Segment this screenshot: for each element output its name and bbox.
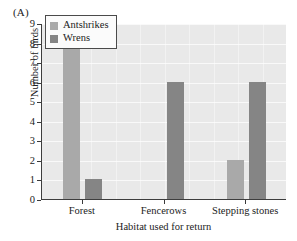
legend-swatch-antshrikes-icon [50,22,58,30]
y-tick-label: 6 [22,77,35,88]
bar-antshrikes-stepping-stones [227,160,244,199]
legend-item-antshrikes: Antshrikes [50,19,109,32]
y-tick-label: 3 [22,136,35,147]
bar-wrens-stepping-stones [249,82,266,199]
bar-wrens-fencerows [167,82,184,199]
y-tick-mark [37,180,41,181]
y-tick-label: 1 [22,175,35,186]
y-tick-mark [37,200,41,201]
x-tick-mark [164,200,165,204]
gridline-vertical [214,24,215,199]
x-tick-mark [245,200,246,204]
gridline-vertical [165,24,166,199]
legend-label-antshrikes: Antshrikes [63,20,109,31]
x-tick-mark [82,200,83,204]
gridline-vertical [116,24,117,199]
y-tick-mark [37,161,41,162]
gridline-vertical [189,24,190,199]
y-tick-mark [37,141,41,142]
y-tick-mark [37,24,41,25]
panel-label: (A) [13,6,29,18]
y-tick-label: 4 [22,117,35,128]
bar-wrens-forest [85,179,102,199]
y-tick-label: 7 [22,58,35,69]
y-axis-tick-labels: 0123456789 [22,24,35,200]
legend-swatch-wrens-icon [50,35,58,43]
gridline-vertical [140,24,141,199]
y-tick-mark [37,122,41,123]
x-tick-label: Fencerows [141,205,187,216]
y-tick-mark [37,44,41,45]
y-tick-label: 8 [22,38,35,49]
chart-legend: Antshrikes Wrens [45,15,117,49]
x-tick-label: Forest [69,205,95,216]
legend-item-wrens: Wrens [50,32,109,45]
y-tick-mark [37,83,41,84]
figure-panel-a: (A) Number of birds 0123456789 Antshrike… [0,0,297,241]
y-tick-mark [37,102,41,103]
y-tick-label: 0 [22,195,35,206]
y-tick-label: 9 [22,19,35,30]
y-tick-label: 2 [22,156,35,167]
gridline-vertical [91,24,92,199]
y-tick-label: 5 [22,97,35,108]
legend-label-wrens: Wrens [63,33,90,44]
x-axis-title: Habitat used for return [41,221,286,232]
bar-antshrikes-forest [63,43,80,199]
x-tick-label: Stepping stones [212,205,278,216]
y-tick-mark [37,63,41,64]
plot-area [41,24,286,200]
